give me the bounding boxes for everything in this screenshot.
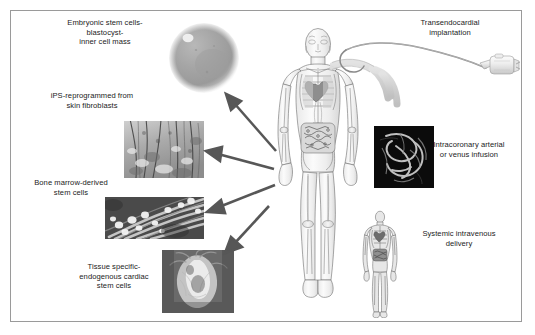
- cardiac-stem-cell-micrograph: [162, 250, 234, 313]
- blastocyst-micrograph: [166, 20, 242, 96]
- label-bone-marrow-derived: Bone marrow-derived stem cells: [17, 178, 125, 197]
- label-tissue-specific: Tissue specific- endogenous cardiac stem…: [64, 262, 164, 291]
- transendocardial-catheter: [330, 28, 520, 108]
- human-venous-figure: [361, 210, 401, 318]
- label-intracoronary: Intracoronary arterial or venus infusion: [414, 140, 524, 159]
- label-ips-reprogrammed: iPS-reprogrammed from skin fibroblasts: [28, 91, 156, 110]
- stem-cell-delivery-figure: Embryonic stem cells- blastocyst- inner …: [0, 0, 535, 335]
- label-systemic-delivery: Systemic intravenous delivery: [406, 229, 512, 248]
- label-embryonic-stem-cells: Embryonic stem cells- blastocyst- inner …: [44, 18, 166, 47]
- skin-fibroblast-micrograph: [124, 121, 204, 178]
- label-transendocardial: Transendocardial implantation: [398, 18, 502, 37]
- bone-marrow-micrograph: [105, 197, 204, 239]
